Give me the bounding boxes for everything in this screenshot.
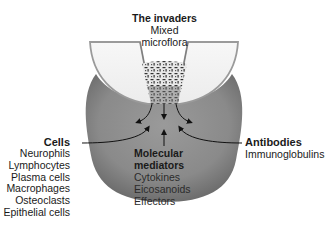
invaders-line: microflora [0, 36, 329, 48]
cell-item: Epithelial cells [3, 207, 70, 219]
mediator-item: Cytokines [134, 171, 191, 183]
cell-item: Lymphocytes [3, 160, 70, 172]
invaders-line: Mixed [0, 24, 329, 36]
molecular-title: Molecular [134, 147, 191, 159]
molecular-title: mediators [134, 159, 191, 171]
cells-label: Cells Neurophils Lymphocytes Plasma cell… [3, 136, 70, 219]
mediator-item: Effectors [134, 195, 191, 207]
invaders-title: The invaders [0, 12, 329, 24]
molecular-mediators-label: Molecular mediators Cytokines Eicosanoid… [134, 147, 191, 207]
antibodies-title: Antibodies [245, 136, 324, 148]
antibody-item: Immunoglobulins [245, 148, 324, 160]
antibodies-label: Antibodies Immunoglobulins [245, 136, 324, 160]
mediator-item: Eicosanoids [134, 183, 191, 195]
invaders-label: The invaders Mixed microflora [0, 12, 329, 48]
